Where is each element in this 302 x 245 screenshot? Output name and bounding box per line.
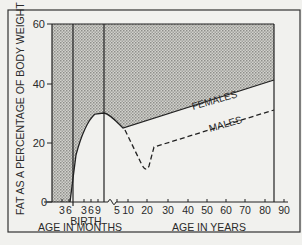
x-axis-title-months: AGE IN MONTHS <box>38 221 122 233</box>
y-tick-label: 40 <box>33 78 45 90</box>
x-axis-title-years: AGE IN YEARS <box>172 221 246 233</box>
x-tick-label-year: 30 <box>162 204 174 216</box>
y-axis-title: FAT AS A PERCENTAGE OF BODY WEIGHT <box>14 2 26 215</box>
shaded-fat-region <box>52 24 274 202</box>
x-tick-label-year: 80 <box>259 204 271 216</box>
x-tick-label-year: 5 <box>114 204 120 216</box>
males-label: MALES <box>208 114 244 134</box>
y-tick-label: 20 <box>33 137 45 149</box>
x-tick-label-year: 70 <box>239 204 251 216</box>
y-ticks <box>47 24 52 202</box>
fat-percentage-chart: 60 40 20 0 FAT AS A PERCENTAGE OF BODY W… <box>0 0 302 245</box>
x-tick-label-year: 50 <box>201 204 213 216</box>
x-tick-label-year: 90 <box>278 204 290 216</box>
x-tick-label-year: 20 <box>141 204 153 216</box>
x-tick-label-year: 10 <box>122 204 134 216</box>
x-tick-label-prenatal: 3 <box>59 204 65 216</box>
x-tick-label-year: 40 <box>182 204 194 216</box>
y-tick-label: 60 <box>33 18 45 30</box>
x-tick-label-year: 60 <box>220 204 232 216</box>
